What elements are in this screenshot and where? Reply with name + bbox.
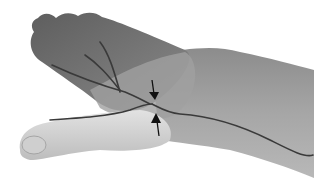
hand-photo: [0, 0, 331, 191]
thumb: [20, 110, 171, 160]
thumbnail: [22, 136, 46, 154]
hand-illustration: [0, 0, 331, 191]
